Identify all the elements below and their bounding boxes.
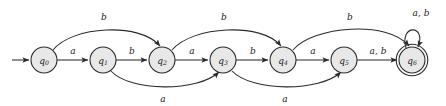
label-transition-q5-q6: a, b bbox=[370, 46, 387, 56]
label-transition-q0-q1: a bbox=[70, 46, 75, 56]
label-transition-q2-q4-arc: b bbox=[221, 12, 227, 22]
label-transition-q1-q2: b bbox=[129, 46, 135, 56]
automaton-diagram: q0 q1 q2 q3 q4 bbox=[0, 0, 446, 106]
state-q5-subscript: 5 bbox=[345, 59, 349, 66]
state-q3[interactable]: q3 bbox=[210, 47, 236, 73]
automaton-canvas: q0 q1 q2 q3 q4 bbox=[0, 0, 446, 106]
label-transition-q3-q4: b bbox=[250, 46, 256, 56]
label-transition-q2-q3: a bbox=[189, 46, 194, 56]
label-transition-q1-q3-arc: a bbox=[160, 94, 165, 104]
state-q1-subscript: 1 bbox=[104, 59, 108, 66]
state-q2-subscript: 2 bbox=[162, 59, 167, 66]
transition-q1-q3-arc bbox=[111, 71, 219, 87]
label-transition-q3-q5-arc: a bbox=[282, 94, 287, 104]
state-q3-subscript: 3 bbox=[224, 59, 228, 66]
state-q5[interactable]: q5 bbox=[331, 47, 357, 73]
label-transition-q6-q6-self-loop: a, b bbox=[413, 8, 430, 18]
label-transition-q4-q5: a bbox=[310, 46, 315, 56]
state-q2[interactable]: q2 bbox=[149, 47, 175, 73]
state-q0-subscript: 0 bbox=[45, 59, 49, 66]
label-transition-q0-q2-arc: b bbox=[101, 12, 107, 22]
transition-q3-q5-arc bbox=[232, 71, 341, 87]
state-q6[interactable]: q6 bbox=[396, 44, 428, 76]
state-q4-subscript: 4 bbox=[283, 59, 288, 66]
state-q0[interactable]: q0 bbox=[31, 47, 57, 73]
state-q6-subscript: 6 bbox=[413, 59, 417, 66]
state-q1[interactable]: q1 bbox=[90, 47, 116, 73]
label-transition-q4-q6-arc: b bbox=[347, 12, 353, 22]
state-q4[interactable]: q4 bbox=[270, 47, 296, 73]
